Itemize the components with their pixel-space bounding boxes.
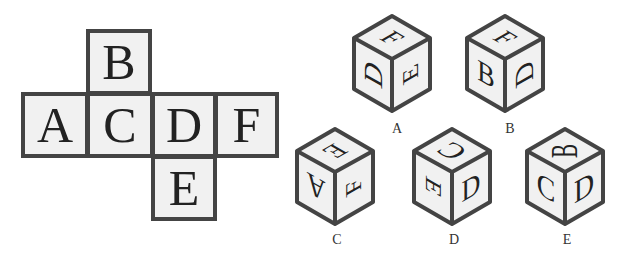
cube-option-b[interactable]: F B D — [467, 16, 543, 111]
cube-e-top-letter: B — [544, 144, 586, 158]
cube-options: F D E F B D E A F — [0, 0, 623, 256]
option-label-d: D — [449, 232, 459, 248]
cube-option-e[interactable]: B C D — [527, 129, 603, 224]
option-label-a: A — [392, 121, 402, 137]
option-label-c: C — [332, 232, 341, 248]
option-label-e: E — [563, 232, 572, 248]
cube-option-a[interactable]: F D E — [354, 16, 430, 111]
option-label-b: B — [505, 121, 514, 137]
cube-option-c[interactable]: E A F — [297, 129, 373, 224]
cube-option-d[interactable]: C E D — [414, 129, 490, 224]
